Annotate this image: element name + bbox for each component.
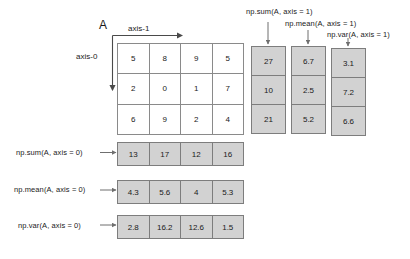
diagram-canvas: A axis-1 axis-0 5 8 9 5 2 0 1 7 6 9 2 4 <box>0 0 410 259</box>
matrix-cell: 9 <box>149 104 181 134</box>
axis-1-label: axis-1 <box>128 24 149 33</box>
result-cell: 5.3 <box>212 181 244 204</box>
matrix-title: A <box>99 18 107 32</box>
table-row: 2 0 1 7 <box>118 74 244 104</box>
result-cell: 4.3 <box>118 181 150 204</box>
table-row: 3.1 <box>332 49 366 78</box>
result-row-mean-axis0: 4.3 5.6 4 5.3 <box>117 180 244 204</box>
result-cell: 5.2 <box>292 105 326 134</box>
result-cell: 16.2 <box>149 216 181 239</box>
result-cell: 12.6 <box>181 216 213 239</box>
result-cell: 1.5 <box>212 216 244 239</box>
table-row: 6.6 <box>332 107 366 136</box>
table-row: 2.5 <box>292 76 326 105</box>
result-cell: 5.6 <box>149 181 181 204</box>
matrix-cell: 2 <box>118 74 150 104</box>
result-cell: 2.8 <box>118 216 150 239</box>
table-row: 10 <box>252 76 286 105</box>
table-row: 6 9 2 4 <box>118 104 244 134</box>
result-cell: 10 <box>252 76 286 105</box>
table-row: 27 <box>252 47 286 76</box>
matrix-cell: 1 <box>181 74 213 104</box>
result-column-mean-axis1: 6.7 2.5 5.2 <box>291 46 326 134</box>
label-mean-axis1: np.mean(A, axis = 1) <box>285 19 356 28</box>
matrix-cell: 8 <box>149 44 181 74</box>
table-row: 13 17 12 16 <box>118 143 244 166</box>
matrix-A: 5 8 9 5 2 0 1 7 6 9 2 4 <box>117 43 244 135</box>
result-cell: 6.7 <box>292 47 326 76</box>
matrix-cell: 7 <box>212 74 244 104</box>
result-column-var-axis1: 3.1 7.2 6.6 <box>331 48 366 136</box>
result-cell: 7.2 <box>332 78 366 107</box>
result-cell: 21 <box>252 105 286 134</box>
matrix-cell: 6 <box>118 104 150 134</box>
label-sum-axis1: np.sum(A, axis = 1) <box>246 7 313 16</box>
result-row-var-axis0: 2.8 16.2 12.6 1.5 <box>117 215 244 239</box>
result-cell: 17 <box>149 143 181 166</box>
label-sum-axis0: np.sum(A, axis = 0) <box>16 148 83 157</box>
matrix-cell: 2 <box>181 104 213 134</box>
matrix-cell: 5 <box>212 44 244 74</box>
axis-0-label: axis-0 <box>76 52 97 61</box>
label-var-axis1: np.var(A, axis = 1) <box>327 30 390 39</box>
result-cell: 3.1 <box>332 49 366 78</box>
table-row: 5.2 <box>292 105 326 134</box>
matrix-cell: 5 <box>118 44 150 74</box>
matrix-cell: 9 <box>181 44 213 74</box>
result-row-sum-axis0: 13 17 12 16 <box>117 142 244 166</box>
table-row: 2.8 16.2 12.6 1.5 <box>118 216 244 239</box>
label-var-axis0: np.var(A, axis = 0) <box>18 221 81 230</box>
result-cell: 2.5 <box>292 76 326 105</box>
table-row: 21 <box>252 105 286 134</box>
table-row: 5 8 9 5 <box>118 44 244 74</box>
table-row: 7.2 <box>332 78 366 107</box>
result-cell: 12 <box>181 143 213 166</box>
result-cell: 27 <box>252 47 286 76</box>
table-row: 6.7 <box>292 47 326 76</box>
matrix-cell: 0 <box>149 74 181 104</box>
result-cell: 16 <box>212 143 244 166</box>
result-cell: 13 <box>118 143 150 166</box>
table-row: 4.3 5.6 4 5.3 <box>118 181 244 204</box>
matrix-cell: 4 <box>212 104 244 134</box>
result-column-sum-axis1: 27 10 21 <box>251 46 286 134</box>
result-cell: 4 <box>181 181 213 204</box>
label-mean-axis0: np.mean(A, axis = 0) <box>14 185 85 194</box>
result-cell: 6.6 <box>332 107 366 136</box>
